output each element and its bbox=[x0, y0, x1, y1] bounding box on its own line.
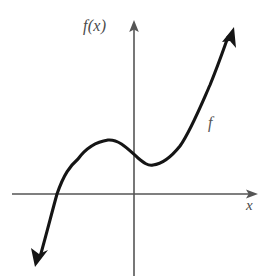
curve-label-f: f bbox=[208, 114, 212, 132]
function-graph-svg bbox=[0, 0, 263, 276]
figure-container: f(x) x f bbox=[0, 0, 263, 276]
x-axis-label: x bbox=[246, 197, 253, 214]
y-axis-label: f(x) bbox=[83, 17, 106, 35]
curve-arrowhead-bottom-left bbox=[31, 248, 48, 267]
